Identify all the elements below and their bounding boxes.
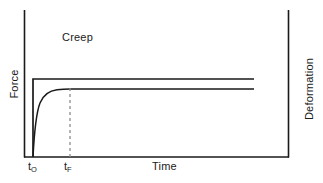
deformation-creep-curve xyxy=(33,89,254,157)
tick-label-tf: tF xyxy=(64,160,72,172)
tick-label-t0-subscript: O xyxy=(31,165,37,174)
creep-diagram: Force Deformation Time Creep tO tF xyxy=(0,0,323,183)
force-axis-label: Force xyxy=(8,62,20,106)
time-axis-label: Time xyxy=(152,160,177,172)
force-step-curve xyxy=(33,79,254,157)
deformation-axis-label: Deformation xyxy=(303,39,315,139)
creep-annotation: Creep xyxy=(62,31,93,43)
tick-label-tf-subscript: F xyxy=(67,165,72,174)
creep-plot-svg xyxy=(0,0,323,183)
tick-label-t0: tO xyxy=(28,160,37,172)
